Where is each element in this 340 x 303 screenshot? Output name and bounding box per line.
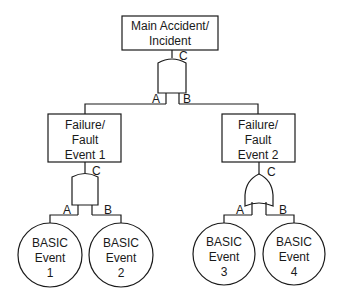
basic-event-1-node: BASIC Event 1: [18, 223, 82, 287]
basic1-label-line3: 1: [47, 266, 54, 280]
intermediate-event-2-node: Failure/ Fault Event 2: [222, 114, 295, 162]
basic2-label-line1: BASIC: [103, 236, 139, 250]
event1-and-gate: C A B: [63, 162, 112, 217]
and-gate-icon: [72, 174, 98, 206]
event1-label-line3: Event 1: [65, 148, 106, 162]
basic1-label-line1: BASIC: [32, 236, 68, 250]
event1-gate-output-label: C: [92, 164, 101, 178]
top-event-label-line2: Incident: [149, 34, 192, 48]
basic2-label-line2: Event: [106, 251, 137, 265]
basic4-label-line3: 4: [291, 265, 298, 279]
basic4-label-line1: BASIC: [276, 235, 312, 249]
event2-gate-output-label: C: [267, 165, 276, 179]
basic3-label-line2: Event: [209, 250, 240, 264]
basic3-label-line3: 3: [221, 265, 228, 279]
event2-or-gate: C A B: [236, 162, 287, 217]
intermediate-event-1-node: Failure/ Fault Event 1: [48, 114, 121, 162]
top-gate-output-label: C: [179, 49, 188, 63]
basic1-label-line2: Event: [35, 251, 66, 265]
and-gate-icon: [158, 59, 186, 93]
event2-label-line1: Failure/: [238, 118, 279, 132]
top-and-gate: C A B: [152, 49, 191, 106]
basic-event-4-node: BASIC Event 4: [263, 223, 325, 285]
basic2-label-line3: 2: [118, 266, 125, 280]
basic4-label-line2: Event: [279, 250, 310, 264]
basic-event-3-node: BASIC Event 3: [193, 223, 255, 285]
top-event-label-line1: Main Accident/: [131, 19, 210, 33]
event1-label-line1: Failure/: [65, 118, 106, 132]
basic3-label-line1: BASIC: [206, 235, 242, 249]
fault-tree-diagram: Main Accident/ Incident C A B Failure/ F…: [0, 0, 340, 303]
event1-label-line2: Fault: [72, 133, 99, 147]
top-event-node: Main Accident/ Incident: [122, 16, 218, 50]
event2-label-line2: Fault: [245, 133, 272, 147]
basic-event-2-node: BASIC Event 2: [89, 223, 153, 287]
event2-label-line3: Event 2: [238, 148, 279, 162]
